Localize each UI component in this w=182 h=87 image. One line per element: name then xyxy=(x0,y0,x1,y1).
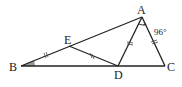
label-d: D xyxy=(114,68,123,82)
label-b: B xyxy=(9,60,17,74)
geometry-diagram: A B C D E 96° xyxy=(0,0,182,87)
label-c: C xyxy=(167,60,175,74)
tick-ad xyxy=(127,42,133,43)
label-a: A xyxy=(137,3,146,17)
segment-ad xyxy=(118,17,142,66)
angle-a-label: 96° xyxy=(154,27,167,37)
segment-ab xyxy=(21,17,142,66)
label-e: E xyxy=(64,33,71,47)
segment-ed xyxy=(69,46,118,66)
